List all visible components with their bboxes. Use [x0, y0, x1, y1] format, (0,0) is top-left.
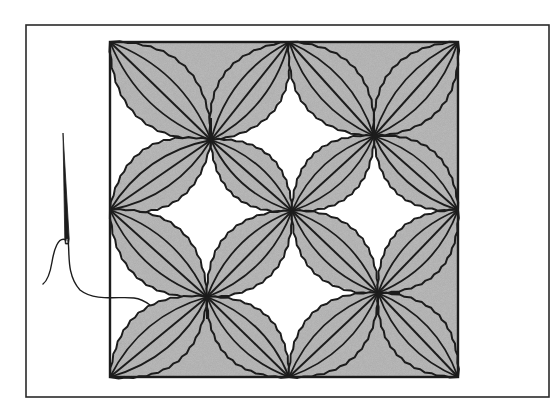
- quilt-block-diagram: [0, 0, 558, 420]
- petal: [292, 135, 375, 212]
- needle-icon: [63, 133, 69, 244]
- petal: [292, 210, 379, 294]
- petal: [206, 210, 292, 297]
- petal: [110, 209, 207, 298]
- petal: [110, 137, 211, 213]
- petal: [211, 139, 292, 212]
- thread-tail: [43, 239, 66, 284]
- illustration-stage: Quilt block with curved petal appliqué a…: [0, 0, 558, 420]
- petal-appliques: [110, 41, 460, 378]
